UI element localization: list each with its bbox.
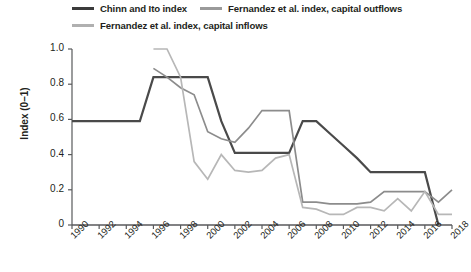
y-tick-label: 0.4 bbox=[38, 148, 64, 159]
y-tick-label: 1.0 bbox=[38, 42, 64, 53]
y-tick-label: 0.8 bbox=[38, 77, 64, 88]
series-line-2 bbox=[153, 49, 452, 214]
series-line-1 bbox=[153, 68, 452, 204]
series-line-0 bbox=[72, 77, 438, 225]
y-tick-label: 0.2 bbox=[38, 183, 64, 194]
y-tick-label: 0.6 bbox=[38, 112, 64, 123]
series-layer bbox=[72, 49, 452, 225]
y-tick-label: 0 bbox=[38, 218, 64, 229]
